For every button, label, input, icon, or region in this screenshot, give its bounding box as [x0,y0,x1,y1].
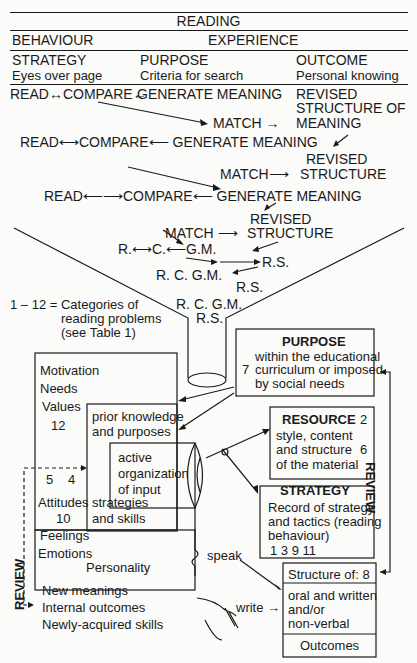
cycle2-match: MATCH⟶ [220,167,289,182]
review-left-label: REVIEW [12,559,27,610]
cycle2-revised: REVISED [306,152,367,167]
resource-line1: style, content [276,428,353,443]
resource-num1: 2 [360,412,367,427]
review-right-label: REVIEW [363,462,378,513]
cycle1-match: MATCH → [213,116,280,131]
purpose-line2: curriculum or imposed [255,362,383,377]
num-4: 4 [68,472,75,487]
resource-line3: of the material [276,457,358,472]
feelings: Feelings [40,528,89,543]
rule [10,84,408,85]
col-strategy-sub: Eyes over page [12,68,102,83]
legend-line1: 1 – 12 = Categories of [10,297,138,312]
rule [10,30,408,31]
strategy-line3: behaviour) [268,528,329,543]
purpose-num: 7 [242,362,249,377]
cycle4-rs1: R.S. [262,255,289,270]
cycle3-read: READ⟵⟶COMPARE⟵ GENERATE MEANING [44,189,362,204]
purpose-title: PURPOSE [282,334,346,349]
active-line1: active [118,450,152,465]
strategy-nums: 1 3 9 11 [270,543,316,558]
outcome-line2: Internal outcomes [42,600,145,615]
personality: Personality [86,560,150,575]
outcome-line1: New meanings [42,583,128,598]
structure-line1: oral and written [288,588,377,603]
rule [10,50,408,51]
strategy-title: STRATEGY [280,483,350,498]
purpose-line3: by social needs [255,376,345,391]
cycle1-generate: GENERATE MEANING [137,87,282,102]
cycle3-match: MATCH ⟶ [165,226,238,241]
attitudes: Attitudes [38,495,89,510]
structure-line2: and/or [288,602,325,617]
cycle4-row2: R. C. G.M. [156,268,222,283]
needs: Needs [40,381,78,396]
col-strategy: STRATEGY [12,53,86,68]
cycle5-rs: R.S. [196,311,223,326]
cycle1-meaning: MEANING [296,116,361,131]
cycle1-read-compare: READ↔COMPARE← [10,87,147,102]
cycle3-structure: STRUCTURE [247,226,333,241]
cycle1-structure-of: STRUCTURE OF [296,101,406,116]
cycle4-rs2: R.S. [236,280,263,295]
active-line2: organization [118,466,189,481]
label-behaviour: BEHAVIOUR [12,33,93,48]
cycle2-read: READ⟷COMPARE⟵ GENERATE MEANING [20,135,318,150]
values: Values [42,399,81,414]
legend-line3: (see Table 1) [61,325,136,340]
structure-footer: Outcomes [283,638,376,653]
prior-line1: prior knowledge [92,409,184,424]
num-10: 10 [56,511,70,526]
legend-line2: reading problems [61,311,161,326]
structure-line3: non-verbal [288,616,349,631]
resource-line2: and structure [276,442,352,457]
strategy-line1: Record of strategy [268,500,374,515]
col-purpose: PURPOSE [140,53,208,68]
prior-line4: and skills [92,511,145,526]
structure-title: Structure of: 8 [288,567,370,582]
cycle2-structure: STRUCTURE [300,167,386,182]
prior-line2: and purposes [92,424,171,439]
motivation: Motivation [40,363,99,378]
col-purpose-sub: Criteria for search [140,68,243,83]
title-reading: READING [0,14,417,29]
prior-line3: strategies [92,495,148,510]
strategy-line2: and tactics (reading [268,514,381,529]
label-experience: EXPERIENCE [208,33,298,48]
active-line3: of input [118,482,161,497]
col-outcome-sub: Personal knowing [296,68,399,83]
resource-title: RESOURCE [282,412,356,427]
outcome-line3: Newly-acquired skills [42,617,163,632]
num-5: 5 [46,472,53,487]
cycle4-row1: R.⟷C.⟵G.M. [118,242,216,257]
resource-num2: 6 [360,442,367,457]
speak-label: speak [207,548,242,563]
num-12: 12 [51,418,65,433]
write-label: write → [236,600,280,615]
emotions: Emotions [38,546,92,561]
col-outcome: OUTCOME [296,53,368,68]
